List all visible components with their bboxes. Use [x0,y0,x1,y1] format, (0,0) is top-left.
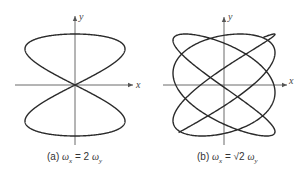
caption-label: (a) [47,151,59,162]
caption-coefficient: 2 [84,151,90,162]
caption-equals: = [222,151,233,162]
figure-a: x y [15,11,141,145]
x-axis-label: x [135,79,141,90]
caption-equals: = [72,151,83,162]
caption-b: (b) ωx = √2 ωy [197,151,258,165]
y-axis-label: y [227,11,233,22]
caption-a: (a) ωx = 2 ωy [47,151,102,165]
caption-omega-x: ωx [212,151,222,162]
figure-b: x y [163,11,294,145]
caption-omega-y: ωy [247,151,257,162]
caption-coefficient: √2 [234,151,245,162]
y-axis-label: y [78,11,84,22]
x-axis-label: x [288,75,294,86]
caption-omega-y: ωy [92,151,102,162]
caption-label: (b) [197,151,209,162]
caption-omega-x: ωx [62,151,72,162]
lissajous-diagram: x y x y [0,0,296,173]
